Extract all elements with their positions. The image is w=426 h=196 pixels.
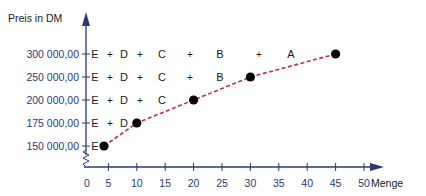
price-quantity-chart: Preis in DM 150 000,00175 000,00200 000,… bbox=[0, 0, 426, 196]
region-label: E bbox=[91, 71, 98, 83]
x-tick-label: 5 bbox=[105, 177, 111, 189]
plus-marker: + bbox=[107, 49, 113, 60]
y-tick-label: 150 000,00 bbox=[26, 140, 79, 152]
data-point bbox=[331, 49, 340, 58]
plus-marker: + bbox=[107, 72, 113, 83]
y-tick-label: 175 000,00 bbox=[26, 117, 79, 129]
x-tick-label: 35 bbox=[273, 177, 285, 189]
plus-marker: + bbox=[137, 72, 143, 83]
region-label: C bbox=[158, 71, 166, 83]
y-axis-arrow-icon bbox=[82, 12, 90, 26]
plus-marker: + bbox=[187, 72, 193, 83]
x-tick-label: 15 bbox=[159, 177, 171, 189]
data-point bbox=[246, 72, 255, 81]
x-tick-label: 20 bbox=[188, 177, 200, 189]
plus-marker: + bbox=[187, 49, 193, 60]
region-label: B bbox=[216, 48, 223, 60]
region-label: C bbox=[158, 94, 166, 106]
x-tick-label: 0 bbox=[84, 177, 90, 189]
region-label: A bbox=[287, 48, 295, 60]
plus-marker: + bbox=[256, 49, 262, 60]
y-tick-label: 200 000,00 bbox=[26, 94, 79, 106]
region-label: C bbox=[158, 48, 166, 60]
x-tick-label: 50 bbox=[358, 177, 370, 189]
plus-marker: + bbox=[137, 49, 143, 60]
x-axis-title: Menge bbox=[371, 177, 403, 189]
axes bbox=[82, 12, 384, 171]
region-label: E bbox=[91, 94, 98, 106]
y-tick-label: 250 000,00 bbox=[26, 71, 79, 83]
x-tick-label: 40 bbox=[301, 177, 313, 189]
region-label: B bbox=[216, 71, 223, 83]
plus-marker: + bbox=[107, 118, 113, 129]
region-label: D bbox=[120, 117, 128, 129]
x-axis-arrow-icon bbox=[370, 163, 384, 171]
region-label: E bbox=[91, 140, 98, 152]
data-point bbox=[99, 141, 108, 150]
region-label: D bbox=[120, 71, 128, 83]
y-tick-label: 300 000,00 bbox=[26, 48, 79, 60]
data-point bbox=[189, 95, 198, 104]
x-tick-label: 45 bbox=[330, 177, 342, 189]
region-label: D bbox=[120, 94, 128, 106]
region-label: E bbox=[91, 48, 98, 60]
x-tick-label: 25 bbox=[216, 177, 228, 189]
plus-marker: + bbox=[137, 95, 143, 106]
plus-marker: + bbox=[107, 95, 113, 106]
y-ticks: 150 000,00175 000,00200 000,00250 000,00… bbox=[26, 48, 90, 152]
x-tick-label: 10 bbox=[131, 177, 143, 189]
data-point bbox=[132, 118, 141, 127]
region-label: E bbox=[91, 117, 98, 129]
region-label: D bbox=[120, 48, 128, 60]
data-series bbox=[99, 49, 340, 150]
x-tick-label: 30 bbox=[245, 177, 257, 189]
y-axis-title: Preis in DM bbox=[8, 12, 62, 24]
